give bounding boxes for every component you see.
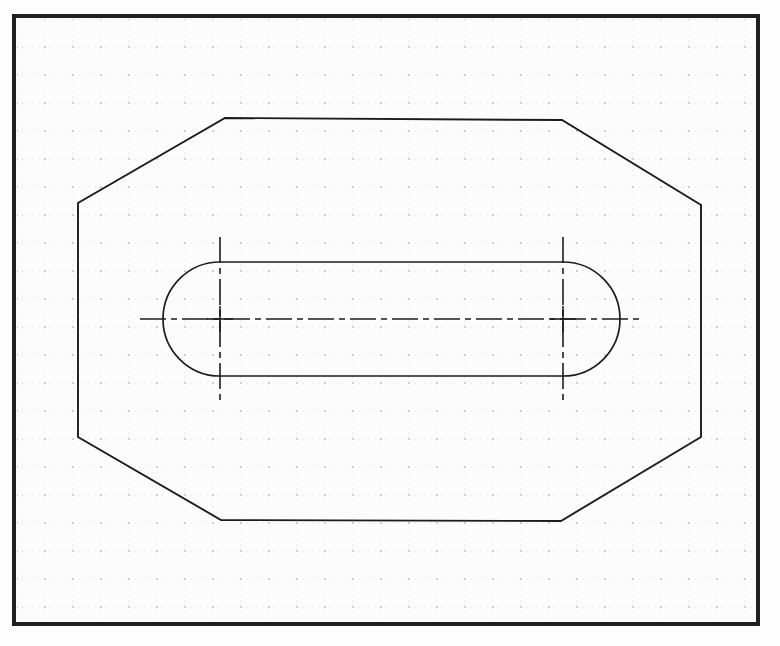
drawing-canvas xyxy=(0,0,780,646)
drawing-page xyxy=(0,0,780,646)
graph-paper-fill xyxy=(14,16,758,624)
